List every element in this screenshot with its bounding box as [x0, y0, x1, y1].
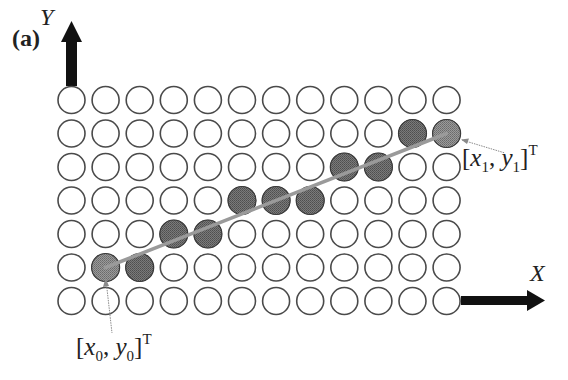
grid-pixel — [58, 288, 85, 315]
grid-pixel — [263, 120, 290, 147]
grid-pixel — [365, 120, 392, 147]
grid-pixel — [433, 87, 460, 114]
end-point-label: [x1, y1]T — [462, 142, 538, 176]
start-point-label: [x0, y0]T — [76, 331, 152, 365]
grid-pixel — [365, 254, 392, 281]
grid-pixel — [331, 120, 358, 147]
grid-pixel — [92, 87, 119, 114]
grid-pixel — [229, 288, 256, 315]
grid-pixel — [433, 221, 460, 248]
y-axis-label: Y — [40, 4, 53, 31]
grid-pixel — [297, 87, 324, 114]
grid-pixel — [194, 254, 221, 281]
grid-pixel — [160, 288, 187, 315]
grid-pixel — [58, 154, 85, 181]
grid-pixel — [58, 87, 85, 114]
grid-pixel — [58, 120, 85, 147]
x-axis-label: X — [530, 260, 545, 287]
grid-pixel — [263, 254, 290, 281]
grid-pixel — [399, 154, 426, 181]
grid-pixel — [365, 221, 392, 248]
grid-pixel — [160, 87, 187, 114]
grid-pixel — [433, 254, 460, 281]
grid-pixel — [229, 120, 256, 147]
grid-pixel — [126, 187, 153, 214]
grid-pixel — [433, 187, 460, 214]
grid-pixel — [331, 221, 358, 248]
grid-pixel — [433, 288, 460, 315]
grid-pixel — [160, 120, 187, 147]
grid-pixel — [160, 254, 187, 281]
grid-pixel — [331, 254, 358, 281]
grid-pixel — [58, 254, 85, 281]
grid-pixel — [126, 288, 153, 315]
grid-pixel — [194, 187, 221, 214]
grid-pixel — [399, 254, 426, 281]
x-axis-arrow-icon — [461, 290, 545, 311]
grid-pixel — [194, 120, 221, 147]
grid-pixel — [229, 254, 256, 281]
grid-pixel — [160, 187, 187, 214]
grid-pixel — [92, 187, 119, 214]
grid-pixel — [229, 154, 256, 181]
grid-pixel — [365, 288, 392, 315]
panel-label: (a) — [12, 25, 40, 52]
grid-pixel — [194, 154, 221, 181]
grid-pixel — [160, 154, 187, 181]
grid-pixel — [263, 154, 290, 181]
grid-pixel — [58, 187, 85, 214]
grid-pixel — [194, 87, 221, 114]
grid-pixel — [297, 221, 324, 248]
grid-pixel — [126, 221, 153, 248]
grid-pixel — [297, 154, 324, 181]
grid-pixel — [399, 221, 426, 248]
bresenham-line-diagram — [0, 0, 568, 380]
grid-pixel — [433, 154, 460, 181]
pixel-grid — [58, 87, 460, 315]
grid-pixel — [229, 221, 256, 248]
grid-pixel — [92, 221, 119, 248]
grid-pixel — [365, 187, 392, 214]
grid-pixel — [126, 120, 153, 147]
grid-pixel — [297, 288, 324, 315]
y-axis-arrow-icon — [61, 21, 82, 86]
grid-pixel — [92, 288, 119, 315]
grid-pixel — [365, 87, 392, 114]
grid-pixel — [399, 288, 426, 315]
grid-pixel — [58, 221, 85, 248]
grid-pixel — [399, 187, 426, 214]
grid-pixel — [331, 187, 358, 214]
grid-pixel — [194, 288, 221, 315]
grid-pixel — [92, 154, 119, 181]
grid-pixel — [126, 87, 153, 114]
grid-pixel — [229, 87, 256, 114]
grid-pixel — [331, 87, 358, 114]
grid-pixel — [263, 288, 290, 315]
grid-pixel — [399, 87, 426, 114]
grid-pixel — [263, 221, 290, 248]
grid-pixel — [297, 254, 324, 281]
grid-pixel — [297, 120, 324, 147]
grid-pixel — [92, 120, 119, 147]
grid-pixel — [263, 87, 290, 114]
grid-pixel — [331, 288, 358, 315]
grid-pixel — [126, 154, 153, 181]
